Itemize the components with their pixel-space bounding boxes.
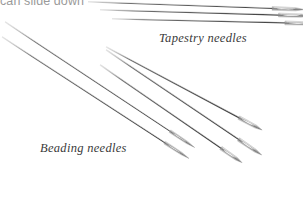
tapestry-needle-horizontal-3 xyxy=(112,17,303,25)
needle-photo-page: can slide down Tapestry needles Beading … xyxy=(0,0,303,223)
beading-needles-label: Beading needles xyxy=(40,141,127,156)
tapestry-needles-label: Tapestry needles xyxy=(159,31,247,46)
clipped-top-caption: can slide down xyxy=(0,0,84,8)
needles-illustration xyxy=(0,0,303,223)
